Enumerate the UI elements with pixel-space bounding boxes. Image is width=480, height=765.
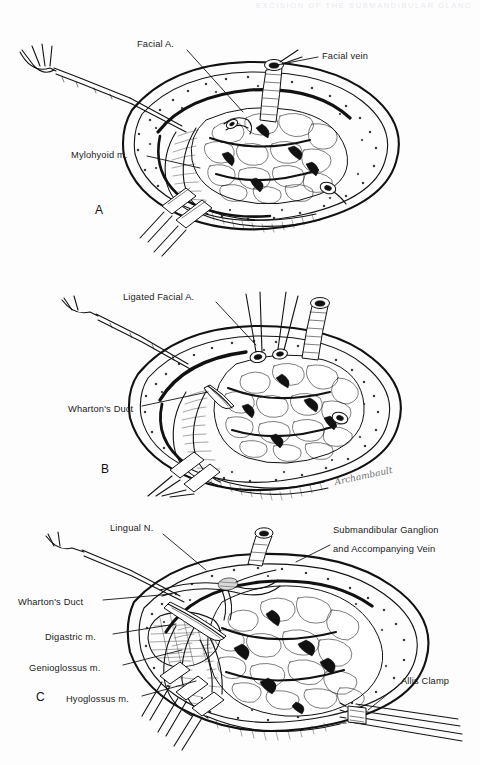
allis-clamp (340, 703, 462, 741)
panel-b-svg (10, 282, 430, 497)
label-allis-clamp-c: Allis Clamp (401, 675, 449, 688)
label-submandibular-ganglion-c: Submandibular Ganglion (333, 524, 439, 537)
panel-letter-c: C (36, 690, 45, 704)
ligated-facial-artery (246, 292, 298, 364)
label-accompanying-vein-c: and Accompanying Vein (333, 543, 435, 556)
panel-b-artwork (10, 282, 430, 497)
label-lingual-nerve-c: Lingual N. (110, 522, 153, 535)
facial-vein (248, 528, 273, 566)
label-whartons-duct-c: Wharton's Duct (18, 596, 83, 609)
label-digastric-c: Digastric m. (45, 631, 96, 644)
label-facial-vein-a: Facial vein (322, 50, 368, 63)
retractor-icon (20, 44, 186, 132)
platysma-flap (206, 716, 340, 740)
retractor-icon (62, 296, 192, 370)
label-ligated-facial-artery-b: Ligated Facial A. (123, 291, 194, 304)
facial-vein (302, 298, 330, 361)
illustration-page: EXCISION OF THE SUBMANDIBULAR GLAND (0, 0, 480, 765)
label-whartons-duct-b: Wharton's Duct (68, 403, 133, 416)
label-genioglossus-c: Genioglossus m. (29, 662, 101, 675)
running-header: EXCISION OF THE SUBMANDIBULAR GLAND (256, 1, 472, 10)
panel-letter-b: B (101, 462, 109, 476)
label-mylohyoid-a: Mylohyoid m. (71, 149, 128, 162)
label-facial-artery-a: Facial A. (137, 38, 174, 51)
panel-letter-a: A (95, 203, 103, 217)
label-hyoglossus-c: Hyoglossus m. (66, 693, 129, 706)
submandibular-gland (208, 586, 383, 716)
submandibular-gland (214, 355, 364, 463)
